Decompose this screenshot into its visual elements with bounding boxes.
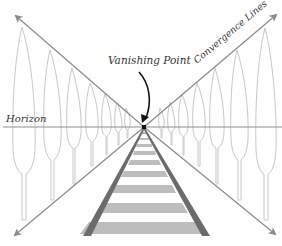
tree-icon <box>86 83 99 166</box>
tie <box>133 151 156 155</box>
pointer-arrowhead-icon <box>141 114 149 123</box>
tie <box>98 203 188 213</box>
tie <box>80 222 205 234</box>
tie <box>112 185 176 193</box>
tie <box>136 144 152 147</box>
horizon-label: Horizon <box>5 113 46 124</box>
tree-icon <box>256 28 276 220</box>
tree-icon <box>102 94 112 155</box>
tree-icon <box>44 50 61 200</box>
tree-icon <box>231 50 248 200</box>
tie <box>121 171 168 177</box>
left-rail <box>83 128 145 236</box>
tree-icon <box>193 83 206 166</box>
convergence-lines-label: Convergence Lines <box>191 0 269 66</box>
tie <box>139 138 149 140</box>
perspective-diagram: Vanishing Point Convergence Lines Horizo… <box>0 0 282 246</box>
convergence-line-bottom-left <box>15 127 144 235</box>
tie <box>128 160 161 165</box>
vanishing-point-label: Vanishing Point <box>108 54 191 66</box>
pointer-arrow-icon <box>139 72 149 118</box>
tree-icon <box>168 102 175 145</box>
vanishing-point-pointer <box>139 72 149 123</box>
tree-icon <box>210 68 225 184</box>
tree-icon <box>179 94 189 155</box>
vanishing-point-marker <box>142 125 146 129</box>
convergence-line-bottom-right <box>144 127 275 234</box>
tree-icon <box>67 68 82 184</box>
tree-icon <box>115 102 122 145</box>
